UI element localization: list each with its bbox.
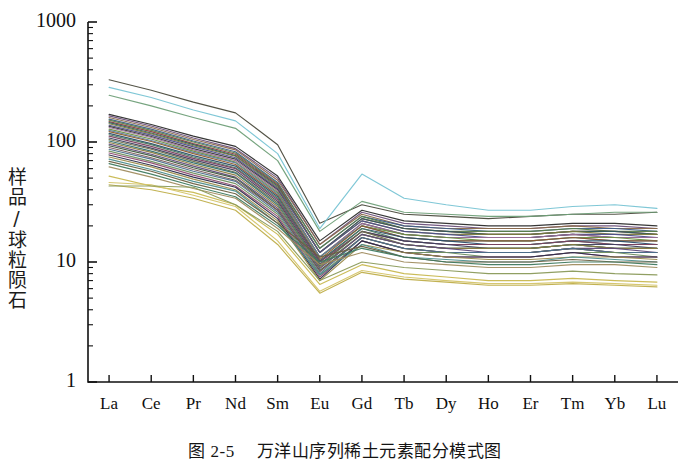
figure-caption: 图 2-5 万洋山序列稀土元素配分模式图: [0, 437, 690, 462]
x-tick-label: Eu: [310, 394, 329, 414]
figure-caption-number: 图 2-5: [188, 442, 234, 461]
x-tick-label: Ho: [478, 394, 499, 414]
ree-spider-diagram-figure: 1000100101 样品/球粒陨石 LaCePrNdSmEuGdTbDyHoE…: [0, 0, 690, 463]
x-tick-label: Ce: [142, 394, 161, 414]
x-tick-label: Gd: [352, 394, 373, 414]
x-axis-ticks: [109, 375, 657, 382]
x-tick-label: Pr: [186, 394, 201, 414]
y-axis-ticks: [88, 22, 97, 382]
x-tick-label: La: [100, 394, 118, 414]
axis-spine: [88, 22, 678, 382]
x-tick-label: Tb: [395, 394, 414, 414]
series-line: [109, 151, 657, 275]
x-tick-label: Sm: [266, 394, 289, 414]
y-tick-label: 1: [0, 369, 84, 392]
x-tick-label: Er: [522, 394, 538, 414]
series-group: [109, 80, 657, 293]
x-tick-label: Nd: [225, 394, 246, 414]
x-tick-label: Yb: [604, 394, 625, 414]
y-axis-title: 样品/球粒陨石: [2, 118, 32, 358]
x-tick-label: Tm: [561, 394, 585, 414]
series-line: [109, 155, 657, 279]
y-axis-title-text: 样品/球粒陨石: [4, 167, 31, 310]
y-tick-label: 1000: [0, 9, 84, 32]
x-tick-label: Lu: [647, 394, 666, 414]
series-line: [109, 182, 657, 291]
x-tick-label: Dy: [436, 394, 457, 414]
series-line: [109, 149, 657, 273]
figure-caption-title: 万洋山序列稀土元素配分模式图: [257, 441, 502, 461]
